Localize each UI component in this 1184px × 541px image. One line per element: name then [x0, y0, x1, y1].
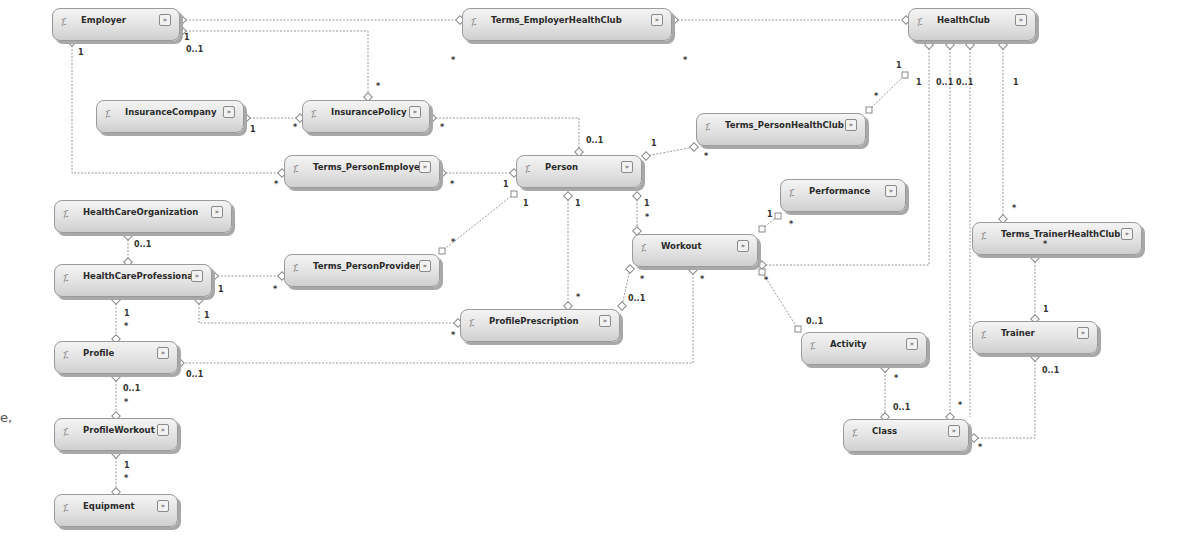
- entity-activity[interactable]: ⁒⁚ Activity »: [801, 332, 927, 365]
- entity-healthclub[interactable]: ⁒⁚ HealthClub »: [908, 8, 1036, 41]
- multiplicity-label: 0..1: [806, 317, 823, 326]
- expand-chevron-icon[interactable]: »: [1077, 327, 1089, 339]
- entity-name: InsuranceCompany: [125, 107, 216, 117]
- multiplicity-label: *: [640, 275, 644, 284]
- multiplicity-label: 1: [184, 33, 190, 42]
- entity-type-icon: ⁒⁚: [469, 317, 481, 329]
- entity-name: Activity: [830, 339, 867, 349]
- multiplicity-label: 1: [644, 199, 650, 208]
- expand-chevron-icon[interactable]: »: [159, 14, 171, 26]
- multiplicity-label: *: [683, 56, 687, 65]
- multiplicity-label: *: [894, 374, 898, 383]
- entity-name: Person: [545, 162, 578, 172]
- expand-chevron-icon[interactable]: »: [191, 270, 203, 282]
- entity-name: Terms_PersonProvider: [313, 261, 420, 271]
- entity-name: ProfileWorkout: [83, 425, 155, 435]
- entity-terms-person-healthclub[interactable]: ⁒⁚ Terms_PersonHealthClub »: [696, 113, 866, 146]
- entity-terms-trainer-healthclub[interactable]: ⁒⁚ Terms_TrainerHealthClub »: [972, 222, 1142, 255]
- multiplicity-label: 1: [1013, 78, 1019, 87]
- expand-chevron-icon[interactable]: »: [223, 106, 235, 118]
- multiplicity-label: *: [451, 238, 455, 247]
- entity-profile-prescription[interactable]: ⁒⁚ ProfilePrescription »: [460, 309, 620, 342]
- entity-name: Performance: [809, 186, 870, 196]
- multiplicity-label: *: [874, 92, 878, 101]
- multiplicity-label: *: [789, 220, 793, 229]
- entity-type-icon: ⁒⁚: [525, 163, 537, 175]
- expand-chevron-icon[interactable]: »: [948, 425, 960, 437]
- entity-profile[interactable]: ⁒⁚ Profile »: [54, 341, 178, 374]
- entity-healthcare-professional[interactable]: ⁒⁚ HealthCareProfessional »: [54, 264, 212, 297]
- expand-chevron-icon[interactable]: »: [1121, 228, 1133, 240]
- multiplicity-label: 0..1: [134, 240, 151, 249]
- multiplicity-label: *: [978, 443, 982, 452]
- expand-chevron-icon[interactable]: »: [211, 206, 223, 218]
- entity-type-icon: ⁒⁚: [63, 272, 75, 284]
- entity-trainer[interactable]: ⁒⁚ Trainer »: [972, 321, 1098, 354]
- multiplicity-label: 0..1: [123, 384, 140, 393]
- expand-chevron-icon[interactable]: »: [419, 161, 431, 173]
- multiplicity-label: 1: [124, 461, 130, 470]
- entity-employer[interactable]: ⁒⁚ Employer »: [52, 8, 180, 41]
- entity-terms-person-employer[interactable]: ⁒⁚ Terms_PersonEmployer »: [284, 155, 440, 188]
- expand-chevron-icon[interactable]: »: [621, 161, 633, 173]
- entity-type-icon: ⁒⁚: [852, 427, 864, 439]
- multiplicity-label: 0..1: [628, 294, 645, 303]
- expand-chevron-icon[interactable]: »: [651, 14, 663, 26]
- entity-workout[interactable]: ⁒⁚ Workout »: [632, 234, 758, 267]
- entity-type-icon: ⁒⁚: [63, 349, 75, 361]
- expand-chevron-icon[interactable]: »: [906, 338, 918, 350]
- expand-chevron-icon[interactable]: »: [737, 240, 749, 252]
- entity-type-icon: ⁒⁚: [63, 502, 75, 514]
- entity-insurance-policy[interactable]: ⁒⁚ InsurancePolicy »: [302, 100, 430, 133]
- entity-name: Terms_PersonEmployer: [313, 162, 424, 172]
- entity-person[interactable]: ⁒⁚ Person »: [516, 155, 642, 188]
- entity-insurance-company[interactable]: ⁒⁚ InsuranceCompany »: [96, 100, 244, 133]
- multiplicity-label: 1: [78, 48, 84, 57]
- multiplicity-label: 1: [204, 311, 210, 320]
- entity-type-icon: ⁒⁚: [810, 340, 822, 352]
- multiplicity-label: *: [124, 322, 128, 331]
- multiplicity-label: *: [274, 180, 278, 189]
- entity-healthcare-organization[interactable]: ⁒⁚ HealthCareOrganization »: [54, 200, 232, 233]
- multiplicity-label: 1: [575, 199, 581, 208]
- entity-terms-person-provider[interactable]: ⁒⁚ Terms_PersonProvider »: [284, 254, 440, 287]
- entity-model-diagram: ⁒⁚ Employer » ⁒⁚ Terms_EmployerHealthClu…: [0, 0, 1184, 541]
- entity-type-icon: ⁒⁚: [705, 121, 717, 133]
- expand-chevron-icon[interactable]: »: [845, 119, 857, 131]
- entity-performance[interactable]: ⁒⁚ Performance »: [780, 179, 906, 212]
- entity-name: Terms_TrainerHealthClub: [1001, 229, 1120, 239]
- multiplicity-label: *: [376, 82, 380, 91]
- entity-type-icon: ⁒⁚: [293, 262, 305, 274]
- entity-type-icon: ⁒⁚: [471, 16, 483, 28]
- multiplicity-label: 0..1: [956, 78, 973, 87]
- entity-type-icon: ⁒⁚: [293, 163, 305, 175]
- entity-type-icon: ⁒⁚: [105, 108, 117, 120]
- entity-type-icon: ⁒⁚: [981, 329, 993, 341]
- expand-chevron-icon[interactable]: »: [599, 315, 611, 327]
- multiplicity-label: *: [700, 275, 704, 284]
- multiplicity-label: 1: [896, 61, 902, 70]
- entity-name: Employer: [81, 15, 126, 25]
- multiplicity-label: *: [124, 474, 128, 483]
- entity-name: HealthCareOrganization: [83, 207, 198, 217]
- entity-profile-workout[interactable]: ⁒⁚ ProfileWorkout »: [54, 418, 178, 451]
- entity-name: Trainer: [1001, 328, 1035, 338]
- entity-terms-employer-healthclub[interactable]: ⁒⁚ Terms_EmployerHealthClub »: [462, 8, 672, 41]
- expand-chevron-icon[interactable]: »: [419, 260, 431, 272]
- multiplicity-label: 1: [651, 139, 657, 148]
- expand-chevron-icon[interactable]: »: [409, 106, 421, 118]
- multiplicity-label: 0..1: [893, 403, 910, 412]
- entity-class[interactable]: ⁒⁚ Class »: [843, 419, 969, 452]
- entity-type-icon: ⁒⁚: [311, 108, 323, 120]
- expand-chevron-icon[interactable]: »: [157, 424, 169, 436]
- multiplicity-label: *: [451, 331, 455, 340]
- expand-chevron-icon[interactable]: »: [157, 500, 169, 512]
- expand-chevron-icon[interactable]: »: [885, 185, 897, 197]
- multiplicity-label: *: [576, 293, 580, 302]
- expand-chevron-icon[interactable]: »: [1015, 14, 1027, 26]
- entity-equipment[interactable]: ⁒⁚ Equipment »: [54, 494, 178, 527]
- multiplicity-label: 1: [523, 199, 529, 208]
- entity-type-icon: ⁒⁚: [63, 208, 75, 220]
- multiplicity-label: 0..1: [186, 45, 203, 54]
- expand-chevron-icon[interactable]: »: [157, 347, 169, 359]
